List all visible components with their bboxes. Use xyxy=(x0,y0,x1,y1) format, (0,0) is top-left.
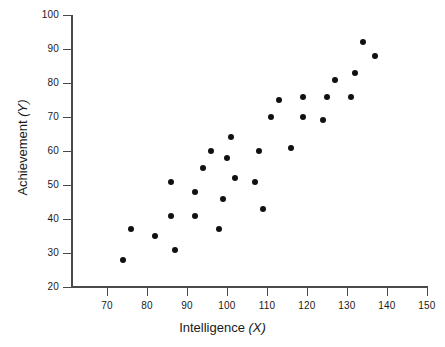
x-axis-line xyxy=(71,286,428,288)
data-point xyxy=(256,148,262,154)
x-tick-label: 90 xyxy=(172,300,202,311)
x-tick-mark xyxy=(147,288,148,296)
data-point xyxy=(168,213,174,219)
x-tick-label: 100 xyxy=(212,300,242,311)
data-point xyxy=(192,189,198,195)
data-point xyxy=(220,196,226,202)
x-tick-label: 140 xyxy=(372,300,402,311)
x-tick-mark xyxy=(307,288,308,296)
y-tick-label: 100 xyxy=(33,10,59,20)
data-point xyxy=(288,145,294,151)
y-tick-mark xyxy=(63,253,71,254)
data-point xyxy=(168,179,174,185)
data-point xyxy=(224,155,230,161)
x-tick-mark xyxy=(267,288,268,296)
x-tick-label: 130 xyxy=(332,300,362,311)
data-point xyxy=(300,94,306,100)
y-tick-label: 80 xyxy=(33,78,59,88)
data-point xyxy=(372,53,378,59)
x-tick-mark xyxy=(107,288,108,296)
data-point xyxy=(260,206,266,212)
x-axis-title-variable: (X) xyxy=(249,320,266,335)
y-axis-title-variable: (Y) xyxy=(15,99,30,116)
y-tick-label: 40 xyxy=(33,214,59,224)
y-tick-mark xyxy=(63,185,71,186)
y-tick-mark xyxy=(63,49,71,50)
data-point xyxy=(300,114,306,120)
x-tick-label: 80 xyxy=(132,300,162,311)
data-point xyxy=(208,148,214,154)
x-axis-title-text: Intelligence xyxy=(179,320,245,335)
x-tick-label: 120 xyxy=(292,300,322,311)
data-point xyxy=(320,117,326,123)
y-tick-label: 70 xyxy=(33,112,59,122)
x-tick-mark xyxy=(227,288,228,296)
data-point xyxy=(120,257,126,263)
x-tick-mark xyxy=(387,288,388,296)
y-tick-mark xyxy=(63,219,71,220)
x-tick-label: 110 xyxy=(252,300,282,311)
y-tick-mark xyxy=(63,287,71,288)
y-tick-label: 50 xyxy=(33,180,59,190)
data-point xyxy=(324,94,330,100)
x-tick-mark xyxy=(427,288,428,296)
y-tick-mark xyxy=(63,83,71,84)
data-point xyxy=(200,165,206,171)
scatter-plot-figure: 2030405060708090100 70809010011012013014… xyxy=(0,0,445,347)
data-point xyxy=(152,233,158,239)
data-point xyxy=(172,247,178,253)
data-point xyxy=(268,114,274,120)
data-point xyxy=(348,94,354,100)
y-tick-mark xyxy=(63,117,71,118)
y-tick-label: 20 xyxy=(33,282,59,292)
x-tick-mark xyxy=(347,288,348,296)
x-tick-mark xyxy=(187,288,188,296)
y-tick-label: 60 xyxy=(33,146,59,156)
y-axis-title: Achievement (Y) xyxy=(15,58,30,238)
y-tick-mark xyxy=(63,15,71,16)
x-axis-title: Intelligence (X) xyxy=(0,320,445,335)
y-tick-label: 90 xyxy=(33,44,59,54)
y-tick-label: 30 xyxy=(33,248,59,258)
data-point xyxy=(252,179,258,185)
x-tick-label: 70 xyxy=(92,300,122,311)
data-point xyxy=(332,77,338,83)
y-tick-mark xyxy=(63,151,71,152)
data-point xyxy=(232,175,238,181)
x-tick-label: 150 xyxy=(412,300,442,311)
data-point xyxy=(192,213,198,219)
y-axis-line xyxy=(71,15,73,288)
data-point xyxy=(216,226,222,232)
data-point xyxy=(228,134,234,140)
data-point xyxy=(352,70,358,76)
data-point xyxy=(276,97,282,103)
data-point xyxy=(360,39,366,45)
data-point xyxy=(128,226,134,232)
y-axis-title-text: Achievement xyxy=(15,120,30,195)
